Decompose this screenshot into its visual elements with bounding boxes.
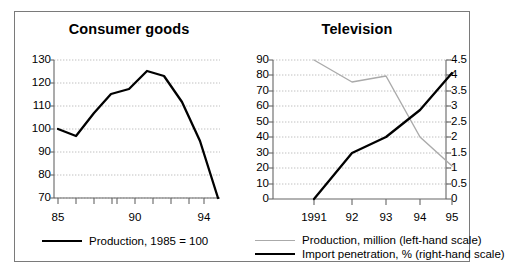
y-axis-right-spine (446, 60, 451, 199)
plot-area-television: 90 80 70 60 50 40 30 20 10 0 4.5 4 3.5 3… (243, 12, 471, 263)
series-production-television (314, 60, 452, 166)
panel-television: Television 90 80 70 60 50 40 30 20 10 0 … (243, 12, 471, 261)
legend-swatch-production-line (42, 240, 82, 242)
series-import-penetration-television (314, 73, 452, 199)
y-axis-spine (49, 60, 54, 198)
legend-label-import-penetration: Import penetration, % (right-hand scale) (302, 248, 505, 260)
series-production-consumer-goods (58, 71, 218, 198)
plot-area-consumer-goods: 130 120 110 100 90 80 70 85 90 94 (15, 12, 243, 263)
x-axis-spine (54, 198, 220, 204)
panel-consumer-goods: Consumer goods 130 120 110 100 90 80 70 … (15, 12, 243, 261)
y-axis-left-spine (268, 60, 273, 199)
legend-label-production-million: Production, million (left-hand scale) (302, 234, 482, 246)
legend-swatch-production-line (255, 240, 295, 241)
gridlines (273, 60, 452, 184)
legend-label-production: Production, 1985 = 100 (89, 235, 208, 247)
legend-swatch-import-penetration-line (255, 253, 295, 255)
figure-frame: Consumer goods 130 120 110 100 90 80 70 … (14, 11, 470, 262)
legend-television-production: Production, million (left-hand scale) (255, 234, 482, 246)
svg-consumer-goods (15, 12, 243, 263)
legend-consumer-goods-production: Production, 1985 = 100 (42, 235, 208, 247)
svg-television (243, 12, 471, 263)
x-axis-spine (273, 199, 452, 205)
legend-television-import-penetration: Import penetration, % (right-hand scale) (255, 248, 505, 260)
